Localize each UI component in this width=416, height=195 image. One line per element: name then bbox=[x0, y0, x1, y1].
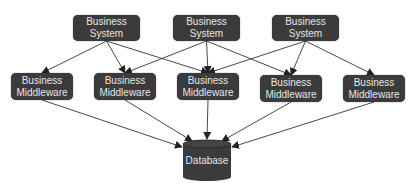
edge-bs3-to-mw3 bbox=[208, 41, 306, 73]
middleware-5-line2: Middleware bbox=[348, 89, 399, 101]
business-system-1: Business System bbox=[73, 15, 140, 41]
edge-bs1-to-mw1 bbox=[42, 41, 107, 73]
edge-mw2-to-db bbox=[125, 100, 192, 141]
edge-mw1-to-db bbox=[42, 100, 182, 147]
edge-mw3-to-db bbox=[207, 100, 208, 139]
database-label: Database bbox=[186, 155, 229, 166]
business-middleware-3: BusinessMiddleware bbox=[177, 73, 239, 100]
business-system-2-label: Business System bbox=[173, 16, 240, 40]
business-system-3: Business System bbox=[272, 15, 339, 41]
business-system-1-label: Business System bbox=[73, 16, 140, 40]
middleware-4-line2: Middleware bbox=[265, 89, 316, 101]
business-middleware-2: BusinessMiddleware bbox=[94, 73, 156, 100]
business-system-2: Business System bbox=[173, 15, 240, 41]
middleware-2-line1: Business bbox=[99, 75, 150, 87]
edge-bs3-to-mw4 bbox=[291, 41, 306, 75]
edge-bs3-to-mw5 bbox=[306, 41, 375, 75]
edge-bs2-to-mw2 bbox=[125, 41, 207, 73]
database-cylinder: Database bbox=[182, 139, 232, 182]
middleware-1-line1: Business bbox=[16, 75, 67, 87]
business-middleware-5: BusinessMiddleware bbox=[343, 75, 405, 102]
business-middleware-1: BusinessMiddleware bbox=[11, 73, 73, 100]
business-system-3-label: Business System bbox=[272, 16, 339, 40]
edge-bs2-to-mw3 bbox=[207, 41, 209, 73]
edge-bs2-to-mw4 bbox=[207, 41, 292, 75]
middleware-5-line1: Business bbox=[348, 77, 399, 89]
middleware-1-line2: Middleware bbox=[16, 87, 67, 99]
middleware-4-line1: Business bbox=[265, 77, 316, 89]
edge-mw4-to-db bbox=[222, 102, 291, 141]
business-middleware-4: BusinessMiddleware bbox=[260, 75, 322, 102]
middleware-2-line2: Middleware bbox=[99, 87, 150, 99]
edge-mw5-to-db bbox=[232, 102, 374, 147]
middleware-3-line2: Middleware bbox=[182, 87, 233, 99]
middleware-3-line1: Business bbox=[182, 75, 233, 87]
